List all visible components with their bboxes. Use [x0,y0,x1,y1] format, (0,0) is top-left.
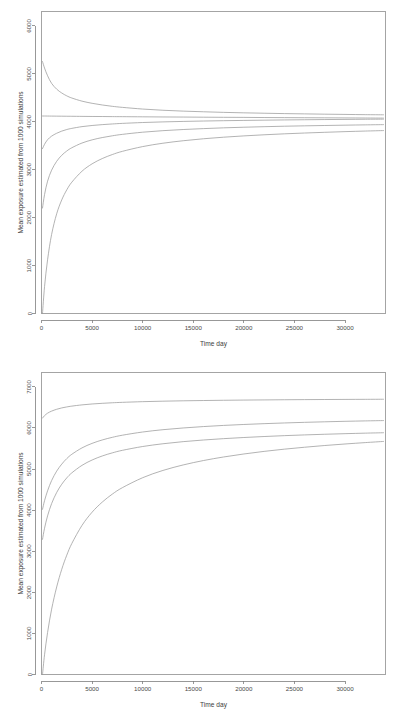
y-tick-label: 1000 [26,626,33,640]
x-tick-label: 10000 [134,324,152,331]
series-curve-curve-3-rising-high [43,119,384,148]
y-tick-label: 0 [26,311,33,315]
y-tick-label: 0 [26,672,33,676]
y-tick-label: 3000 [26,544,33,558]
x-tick-label: 25000 [286,685,304,692]
y-tick-label: 5000 [26,66,33,80]
series-curve-curve-2-flat [43,116,384,118]
series-group [43,62,384,314]
x-tick-label: 15000 [185,324,203,331]
x-tick-label: 0 [40,324,44,331]
series-group [43,399,384,674]
y-axis: 0100020003000400050006000 [26,18,36,315]
figure-page: 0100020003000400050006000Mean exposure e… [0,0,396,722]
line-chart-bottom: 01000200030004000500060007000Mean exposu… [0,361,396,722]
x-axis-title: Time day [200,701,228,709]
series-curve-curve-1-top [43,399,384,418]
y-axis: 01000200030004000500060007000 [26,379,36,676]
y-tick-label: 2000 [26,210,33,224]
x-tick-label: 30000 [336,685,354,692]
x-axis: 050001000015000200002500030000 [40,320,354,331]
series-curve-curve-4-bottom [43,441,384,674]
chart-panel-bottom: 01000200030004000500060007000Mean exposu… [0,361,396,722]
x-axis-title: Time day [200,340,228,348]
x-tick-label: 20000 [235,324,253,331]
y-tick-label: 5000 [26,462,33,476]
x-axis: 050001000015000200002500030000 [40,681,354,692]
x-tick-label: 20000 [235,685,253,692]
plot-frame [42,12,386,314]
y-tick-label: 6000 [26,421,33,435]
series-curve-curve-1-decreasing [43,62,384,115]
y-tick-label: 3000 [26,162,33,176]
y-axis-title: Mean exposure estimated from 1000 simula… [17,91,25,234]
x-tick-label: 0 [40,685,44,692]
series-curve-curve-3-lower-mid [43,433,384,540]
y-tick-label: 4000 [26,503,33,517]
x-tick-label: 5000 [85,685,99,692]
line-chart-top: 0100020003000400050006000Mean exposure e… [0,0,396,361]
series-curve-curve-5-rising-low [43,131,384,314]
y-tick-label: 7000 [26,379,33,393]
x-tick-label: 25000 [286,324,304,331]
x-tick-label: 15000 [185,685,203,692]
x-tick-label: 10000 [134,685,152,692]
y-tick-label: 4000 [26,114,33,128]
series-curve-curve-4-rising-mid [43,125,384,208]
x-tick-label: 5000 [85,324,99,331]
y-axis-title: Mean exposure estimated from 1000 simula… [17,452,25,595]
x-tick-label: 30000 [336,324,354,331]
y-tick-label: 1000 [26,258,33,272]
plot-frame [42,373,386,675]
y-tick-label: 2000 [26,585,33,599]
chart-panel-top: 0100020003000400050006000Mean exposure e… [0,0,396,361]
y-tick-label: 6000 [26,18,33,32]
